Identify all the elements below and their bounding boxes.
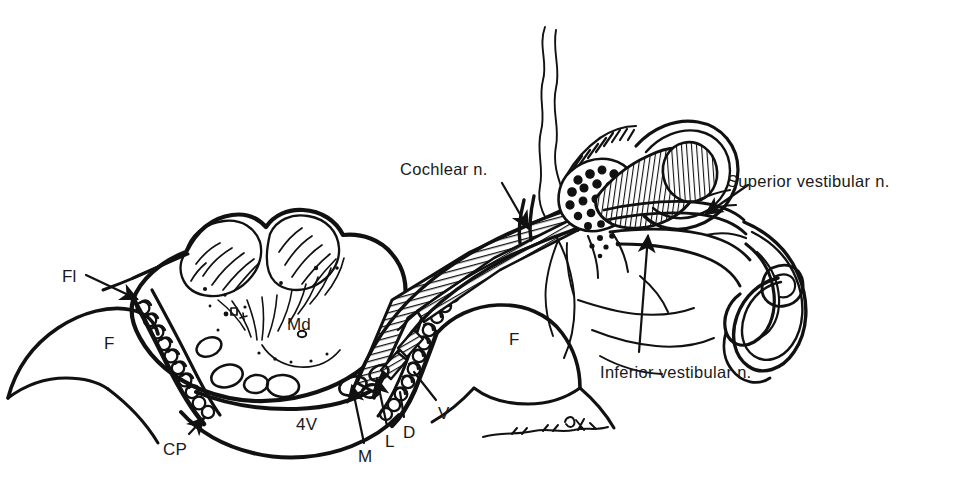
label-inferior-vestibular-nerve: Inferior vestibular n.	[600, 363, 752, 382]
label-choroid-plexus-cp: CP	[163, 440, 187, 460]
label-flocculus-fl: Fl	[62, 267, 77, 287]
label-cochlear-nerve: Cochlear n.	[400, 160, 488, 179]
anatomy-line-drawing	[0, 0, 956, 487]
label-superior-vestibular-nerve: Superior vestibular n.	[727, 172, 890, 191]
label-flocculus-right-f: F	[509, 330, 520, 350]
anatomical-figure: Cochlear n. Superior vestibular n. Infer…	[0, 0, 956, 487]
label-medial-nucleus-m: M	[358, 447, 372, 467]
label-flocculus-left-f: F	[104, 334, 115, 354]
label-lateral-nucleus-l: L	[385, 432, 395, 452]
label-descending-nucleus-d: D	[403, 423, 415, 443]
label-vestibular-nucleus-v: V	[438, 404, 450, 424]
label-medulla-md: Md	[287, 315, 311, 335]
label-fourth-ventricle-4v: 4V	[296, 415, 317, 435]
